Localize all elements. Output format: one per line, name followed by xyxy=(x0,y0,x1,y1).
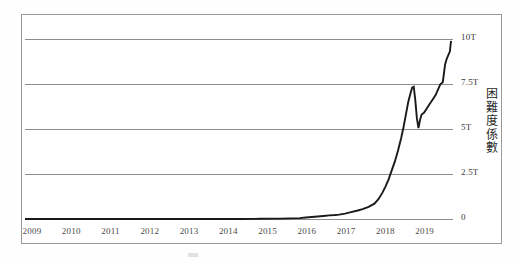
x-tick-label-2014: 2014 xyxy=(213,226,243,236)
y-tick-label-5T: 5T xyxy=(461,122,471,132)
x-tick-label-2011: 2011 xyxy=(96,226,126,236)
figure-container: 02.5T5T7.5T10T 2009201020112012201320142… xyxy=(0,0,520,262)
x-tick-label-2009: 2009 xyxy=(17,226,47,236)
y-tick-label-0: 0 xyxy=(461,212,466,222)
x-tick-label-2017: 2017 xyxy=(331,226,361,236)
x-tick-label-2015: 2015 xyxy=(253,226,283,236)
x-tick-label-2013: 2013 xyxy=(174,226,204,236)
y-tick-label-2.5T: 2.5T xyxy=(461,167,479,177)
y-axis-title-char-3: 係 xyxy=(484,129,500,143)
y-axis-title-char-1: 難 xyxy=(484,102,500,116)
x-tick-label-2012: 2012 xyxy=(135,226,165,236)
chart-plot xyxy=(22,15,501,243)
y-tick-label-7.5T: 7.5T xyxy=(461,77,479,87)
y-axis-title-char-4: 數 xyxy=(484,142,500,156)
page-artifact-mark xyxy=(188,253,198,257)
data-series-line xyxy=(25,41,451,219)
x-tick-label-2019: 2019 xyxy=(410,226,440,236)
y-axis-title-char-0: 困 xyxy=(484,88,500,102)
x-tick-label-2018: 2018 xyxy=(370,226,400,236)
x-tick-label-2016: 2016 xyxy=(292,226,322,236)
y-tick-label-10T: 10T xyxy=(461,32,476,42)
y-axis-title-char-2: 度 xyxy=(484,115,500,129)
x-tick-label-2010: 2010 xyxy=(56,226,86,236)
y-axis-title: 困難度係數 xyxy=(484,88,500,156)
chart-frame xyxy=(21,14,502,244)
